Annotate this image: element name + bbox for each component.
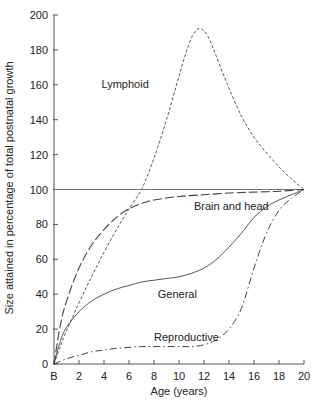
x-tick-label: 12 — [198, 370, 210, 382]
series-label-lymphoid: Lymphoid — [102, 78, 149, 90]
y-tick-label: 100 — [30, 184, 48, 196]
series-label-brain-and-head: Brain and head — [194, 200, 269, 212]
y-tick-label: 120 — [30, 149, 48, 161]
x-tick-label: 18 — [273, 370, 285, 382]
y-tick-label: 200 — [30, 9, 48, 21]
x-tick-label: 16 — [248, 370, 260, 382]
series-label-general: General — [158, 288, 197, 300]
x-axis-title: Age (years) — [151, 385, 208, 397]
x-tick-label: 10 — [173, 370, 185, 382]
x-tick-label: B — [50, 370, 57, 382]
y-tick-label: 60 — [36, 253, 48, 265]
x-tick-label: 2 — [76, 370, 82, 382]
y-tick-label: 0 — [42, 358, 48, 370]
series-group — [54, 28, 304, 364]
y-tick-label: 140 — [30, 114, 48, 126]
y-tick-label: 20 — [36, 323, 48, 335]
y-tick-label: 160 — [30, 79, 48, 91]
x-tick-label: 14 — [223, 370, 235, 382]
growth-curves-chart: 020406080100120140160180200B246810121416… — [0, 0, 319, 407]
y-tick-label: 180 — [30, 44, 48, 56]
y-tick-label: 40 — [36, 288, 48, 300]
y-tick-label: 80 — [36, 218, 48, 230]
series-label-reproductive: Reproductive — [154, 331, 219, 343]
y-axis-title: Size attained in percentage of total pos… — [3, 61, 15, 314]
series-labels: LymphoidBrain and headGeneralReproductiv… — [102, 78, 269, 343]
x-tick-label: 8 — [151, 370, 157, 382]
x-tick-label: 20 — [298, 370, 310, 382]
axes: 020406080100120140160180200B246810121416… — [30, 9, 310, 382]
x-tick-label: 4 — [101, 370, 107, 382]
x-tick-label: 6 — [126, 370, 132, 382]
